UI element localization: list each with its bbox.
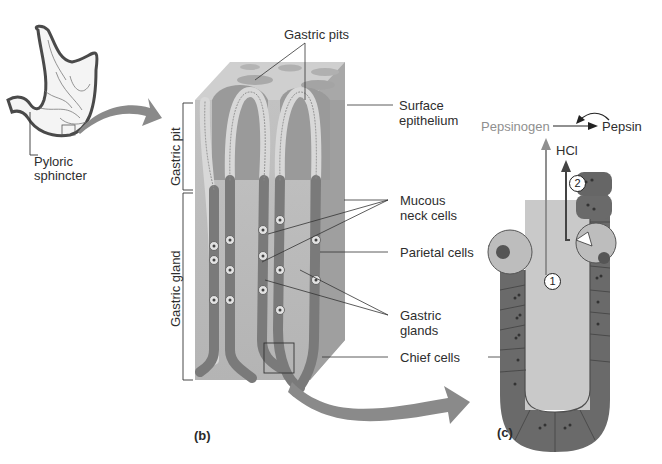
pepsin-label: Pepsin <box>602 119 642 134</box>
step-2-marker: 2 <box>569 175 586 192</box>
stomach-illustration <box>8 26 162 155</box>
zoom-arrow <box>288 382 470 424</box>
pepsinogen-label: Pepsinogen <box>481 119 550 134</box>
hcl-label: HCl <box>556 143 578 158</box>
gastric-glands-label-2: glands <box>400 323 438 338</box>
chief-cells-label: Chief cells <box>400 350 460 365</box>
step-1-marker: 1 <box>544 273 561 290</box>
gastric-gland-bracket-label: Gastric gland <box>168 250 183 327</box>
panel-b-label: (b) <box>194 428 211 443</box>
diagram-artwork <box>0 0 662 464</box>
parietal-cells-label: Parietal cells <box>400 245 474 260</box>
surface-epithelium-label-1: Surface <box>399 98 444 113</box>
gastric-gland-closeup <box>488 172 616 452</box>
pyloric-sphincter-label-2: sphincter <box>34 168 87 183</box>
mucous-neck-cells-label-1: Mucous <box>400 193 446 208</box>
gastric-glands-label-1: Gastric <box>400 308 441 323</box>
pyloric-sphincter-label-1: Pyloric <box>34 154 73 169</box>
panel-c-label: (c) <box>497 425 513 440</box>
brackets <box>183 103 193 380</box>
gastric-pit-bracket-label: Gastric pit <box>168 127 183 186</box>
surface-epithelium-label-2: epithelium <box>399 113 458 128</box>
gastric-pits-label: Gastric pits <box>284 27 349 42</box>
gastric-mucosa-block <box>195 62 345 392</box>
mucous-neck-cells-label-2: neck cells <box>400 208 457 223</box>
